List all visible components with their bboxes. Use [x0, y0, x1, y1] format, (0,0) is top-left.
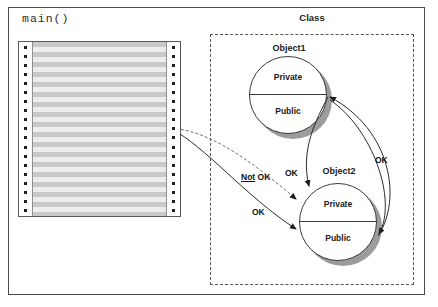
sprocket-hole: [172, 155, 175, 158]
sprocket-hole: [172, 82, 175, 85]
sprocket-hole: [24, 91, 27, 94]
arrow-object1-to-object2-public-return: [330, 100, 385, 234]
sprocket-hole: [172, 118, 175, 121]
figure-screenshot: main(): [0, 0, 438, 307]
sprocket-hole: [24, 200, 27, 203]
sprocket-hole: [172, 146, 175, 149]
arrow-label-not-ok: Not OK: [241, 172, 270, 182]
sprocket-hole: [24, 127, 27, 130]
sprocket-hole: [172, 164, 175, 167]
sprocket-hole: [172, 55, 175, 58]
sprocket-hole: [24, 100, 27, 103]
sprocket-hole: [172, 46, 175, 49]
listing-stripes: [33, 42, 166, 216]
sprocket-hole: [24, 164, 27, 167]
sprocket-holes-left: [19, 42, 33, 216]
sprocket-hole: [24, 82, 27, 85]
sprocket-hole: [24, 55, 27, 58]
sprocket-hole: [24, 146, 27, 149]
arrow-label-not-ok-rest: OK: [255, 172, 270, 182]
sprocket-holes-right: [166, 42, 180, 216]
sprocket-hole: [172, 100, 175, 103]
sprocket-hole: [24, 73, 27, 76]
sprocket-hole: [172, 191, 175, 194]
sprocket-hole: [24, 109, 27, 112]
sprocket-hole: [172, 91, 175, 94]
arrow-label-ok-right: OK: [375, 155, 388, 165]
sprocket-hole: [172, 173, 175, 176]
sprocket-hole: [24, 155, 27, 158]
arrow-object2-to-object1-ok: [330, 97, 390, 236]
sprocket-hole: [172, 64, 175, 67]
sprocket-hole: [172, 136, 175, 139]
sprocket-hole: [172, 209, 175, 212]
arrow-main-to-object2-public-ok: [171, 129, 296, 229]
sprocket-hole: [24, 191, 27, 194]
sprocket-hole: [172, 73, 175, 76]
sprocket-hole: [172, 127, 175, 130]
sprocket-hole: [172, 109, 175, 112]
sprocket-hole: [24, 64, 27, 67]
sprocket-hole: [24, 46, 27, 49]
arrow-label-ok-mid: OK: [285, 168, 298, 178]
sprocket-hole: [24, 173, 27, 176]
sprocket-hole: [24, 182, 27, 185]
sprocket-hole: [24, 118, 27, 121]
sprocket-hole: [24, 209, 27, 212]
sprocket-hole: [24, 136, 27, 139]
arrow-main-to-object2-private-notok: [171, 128, 296, 199]
program-listing: [18, 41, 181, 217]
arrow-label-ok-lower-left: OK: [252, 207, 265, 217]
arrow-label-not-ok-underlined: Not: [241, 172, 255, 182]
arrow-object1-to-object2-private-ok: [306, 97, 328, 186]
sprocket-hole: [172, 182, 175, 185]
sprocket-hole: [172, 200, 175, 203]
